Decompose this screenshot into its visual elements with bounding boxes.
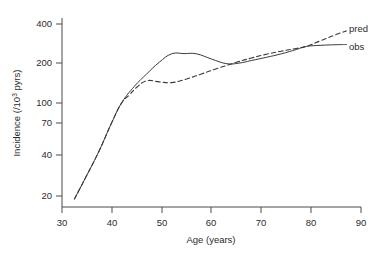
series-line-obs xyxy=(74,45,346,199)
x-axis-title: Age (years) xyxy=(186,234,235,245)
legend-label-obs: obs xyxy=(349,41,365,52)
incidence-by-age-chart: 400 200 100 70 40 20 30 40 50 60 70 80 9… xyxy=(0,0,384,257)
y-axis-ticks xyxy=(56,24,62,196)
series-line-pred xyxy=(74,31,346,199)
y-tick-label-20: 20 xyxy=(41,190,52,201)
x-tick-label-60: 60 xyxy=(206,217,217,228)
y-axis-title-main: Incidence (/10 xyxy=(11,97,22,157)
y-tick-label-100: 100 xyxy=(36,97,52,108)
x-tick-label-40: 40 xyxy=(107,217,118,228)
x-tick-label-50: 50 xyxy=(157,217,168,228)
y-axis-title: Incidence (/103 pyrs) xyxy=(11,69,22,156)
y-tick-label-400: 400 xyxy=(36,18,52,29)
x-tick-label-70: 70 xyxy=(256,217,267,228)
y-tick-label-200: 200 xyxy=(36,57,52,68)
y-axis-title-tail: pyrs) xyxy=(11,69,22,93)
svg-text:Incidence (/103 pyrs): Incidence (/103 pyrs) xyxy=(11,69,22,156)
x-axis-ticks xyxy=(62,207,361,213)
x-tick-label-30: 30 xyxy=(57,217,68,228)
y-tick-label-40: 40 xyxy=(41,149,52,160)
x-tick-label-80: 80 xyxy=(306,217,317,228)
x-tick-label-90: 90 xyxy=(356,217,367,228)
y-tick-label-70: 70 xyxy=(41,117,52,128)
legend-label-pred: pred xyxy=(349,23,368,34)
legend: pred obs xyxy=(346,23,368,52)
